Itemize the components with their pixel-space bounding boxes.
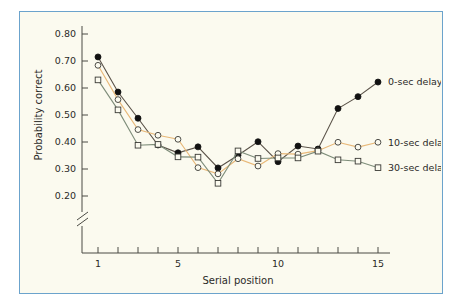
data-point	[135, 142, 141, 148]
legend-label-30-sec-delay: 30-sec delay	[388, 162, 441, 173]
y-tick-label: 0.40	[55, 136, 76, 147]
x-tick-label: 1	[95, 258, 101, 269]
data-point	[355, 94, 361, 100]
x-tick-label: 15	[372, 258, 384, 269]
data-point	[115, 89, 121, 95]
data-point	[95, 62, 101, 68]
data-point	[355, 158, 361, 164]
data-point	[255, 163, 261, 169]
data-point	[335, 106, 341, 112]
data-point	[95, 54, 101, 60]
data-point	[155, 132, 161, 138]
y-axis-break-icon	[77, 212, 88, 226]
data-point	[195, 165, 201, 171]
data-point	[155, 142, 161, 148]
data-point	[135, 127, 141, 133]
data-point	[235, 156, 241, 162]
serial-position-chart: 0.200.300.400.500.600.700.80Probability …	[20, 12, 441, 292]
data-point	[255, 139, 261, 145]
data-point	[355, 144, 361, 150]
data-point	[335, 139, 341, 145]
data-point	[115, 97, 121, 103]
data-point	[135, 115, 141, 121]
data-point	[95, 77, 101, 83]
y-tick-label: 0.30	[55, 163, 76, 174]
data-point	[295, 155, 301, 161]
data-point	[215, 171, 221, 177]
y-tick-label: 0.80	[55, 28, 76, 39]
legend-label-10-sec-delay: 10-sec delay	[388, 137, 441, 148]
y-tick-label: 0.60	[55, 82, 76, 93]
data-point	[195, 154, 201, 160]
data-point	[335, 157, 341, 163]
legend-label-0-sec-delay: 0-sec delay	[388, 76, 441, 87]
data-point	[195, 144, 201, 150]
data-point	[375, 79, 381, 85]
y-tick-label: 0.70	[55, 55, 76, 66]
x-axis-title: Serial position	[202, 275, 273, 286]
data-point	[255, 156, 261, 162]
y-tick-label: 0.20	[55, 190, 76, 201]
data-point	[375, 165, 381, 171]
data-point	[235, 148, 241, 154]
figure-frame: 0.200.300.400.500.600.700.80Probability …	[19, 11, 443, 294]
data-point	[215, 165, 221, 171]
y-tick-label: 0.50	[55, 109, 76, 120]
data-point	[315, 148, 321, 154]
x-tick-label: 5	[175, 258, 181, 269]
data-point	[175, 136, 181, 142]
data-point	[175, 154, 181, 160]
data-point	[295, 143, 301, 149]
data-point	[375, 139, 381, 145]
data-point	[215, 181, 221, 187]
data-point	[275, 155, 281, 161]
x-tick-label: 10	[272, 258, 284, 269]
data-point	[115, 107, 121, 113]
y-axis-title: Probability correct	[33, 69, 44, 160]
